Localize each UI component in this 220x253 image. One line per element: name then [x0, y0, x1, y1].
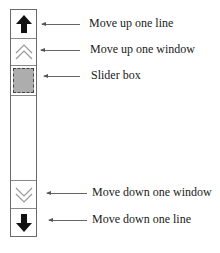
label-up-window: Move up one window	[90, 42, 195, 56]
pointer-arrow-slider	[44, 76, 80, 77]
label-up-line: Move up one line	[89, 16, 173, 30]
scroll-track[interactable]	[11, 96, 36, 180]
scroll-up-line-button[interactable]	[11, 10, 36, 39]
pointer-arrow-up-line	[42, 24, 80, 25]
label-down-window: Move down one window	[92, 185, 212, 199]
pointer-arrow-up-window	[41, 50, 80, 51]
double-chevron-down-icon	[14, 186, 34, 204]
scroll-down-window-button[interactable]	[11, 180, 36, 209]
slider-cell	[11, 66, 36, 96]
solid-down-arrow-icon	[15, 213, 33, 233]
double-chevron-up-icon	[14, 43, 34, 61]
label-slider: Slider box	[91, 68, 141, 82]
scroll-down-line-button[interactable]	[11, 209, 36, 236]
label-down-line: Move down one line	[92, 212, 191, 226]
vertical-scrollbar[interactable]	[10, 9, 37, 237]
slider-box[interactable]	[13, 68, 34, 93]
scroll-up-window-button[interactable]	[11, 39, 36, 66]
pointer-arrow-down-line	[49, 220, 87, 221]
pointer-arrow-down-window	[47, 193, 87, 194]
solid-up-arrow-icon	[15, 14, 33, 34]
